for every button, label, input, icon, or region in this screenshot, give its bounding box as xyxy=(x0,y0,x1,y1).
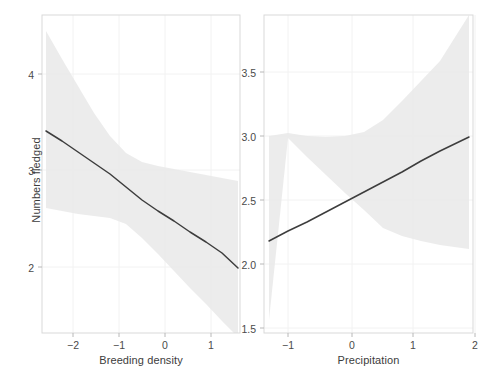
y-tick-label: 3.0 xyxy=(232,131,256,143)
x-tick-label: 0 xyxy=(339,339,365,351)
y-tick-label: 3.5 xyxy=(232,67,256,79)
plot-area-precipitation xyxy=(246,0,489,378)
y-axis-ticks xyxy=(260,72,264,328)
x-tick-label: −1 xyxy=(275,339,301,351)
y-tick-label: 2 xyxy=(6,262,34,274)
x-tick-label: −1 xyxy=(106,339,132,351)
x-tick-label: 0 xyxy=(152,339,178,351)
panel-precipitation: 3.5 3.0 2.5 2.0 1.5 −1 0 1 2 Precipitati… xyxy=(246,0,489,378)
y-tick-label: 4 xyxy=(6,69,34,81)
y-tick-label: 1.5 xyxy=(232,323,256,335)
x-tick-label: 1 xyxy=(198,339,224,351)
x-tick-label: −2 xyxy=(60,339,86,351)
x-tick-label: 2 xyxy=(462,339,488,351)
x-tick-label: 1 xyxy=(400,339,426,351)
x-axis-title: Precipitation xyxy=(264,354,473,366)
x-axis-ticks xyxy=(73,333,211,337)
figure-canvas: 4 3 2 −2 −1 0 1 Numbers fledged Breeding… xyxy=(0,0,489,378)
x-axis-ticks xyxy=(288,333,475,337)
y-tick-label: 2.5 xyxy=(232,195,256,207)
panel-breeding-density: 4 3 2 −2 −1 0 1 Numbers fledged Breeding… xyxy=(0,0,246,378)
x-axis-title: Breeding density xyxy=(42,354,240,366)
y-tick-label: 2.0 xyxy=(232,259,256,271)
y-axis-title: Numbers fledged xyxy=(30,100,42,260)
